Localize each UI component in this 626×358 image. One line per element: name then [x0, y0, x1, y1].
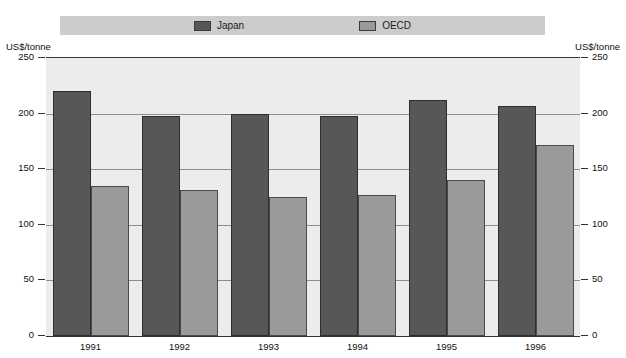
bar-group — [402, 58, 491, 336]
x-axis-label-1991: 1991 — [46, 341, 135, 352]
legend-swatch-icon — [194, 21, 211, 31]
y-axis-tick-mark-left — [38, 335, 45, 336]
y-axis-tick-mark-right — [581, 168, 588, 169]
y-axis-tick-label-right-100: 100 — [592, 219, 626, 229]
bar-japan-1993 — [231, 114, 269, 336]
bar-group — [491, 58, 580, 336]
bar-group — [46, 58, 135, 336]
x-axis-label-1995: 1995 — [402, 341, 491, 352]
y-axis-tick-mark-right — [581, 335, 588, 336]
x-axis-label-1993: 1993 — [224, 341, 313, 352]
y-axis-tick-label-left-200: 200 — [0, 108, 34, 118]
legend-item-japan: Japan — [194, 16, 244, 35]
x-axis-label-1992: 1992 — [135, 341, 224, 352]
y-axis-tick-label-right-200: 200 — [592, 108, 626, 118]
bar-japan-1996 — [498, 106, 536, 336]
y-axis-tick-label-left-50: 50 — [0, 274, 34, 284]
y-axis-tick-label-right-250: 250 — [592, 52, 626, 62]
y-axis-tick-label-right-0: 0 — [592, 330, 626, 340]
y-axis-tick-mark-left — [38, 57, 45, 58]
bar-japan-1994 — [320, 116, 358, 336]
x-axis-label-1996: 1996 — [491, 341, 580, 352]
y-axis-tick-label-right-150: 150 — [592, 163, 626, 173]
y-axis-tick-mark-right — [581, 279, 588, 280]
bar-japan-1991 — [53, 91, 91, 336]
legend-swatch-icon — [359, 21, 376, 31]
y-axis-tick-mark-right — [581, 224, 588, 225]
bar-japan-1992 — [142, 116, 180, 336]
bar-oecd-1992 — [180, 190, 218, 336]
chart-legend: Japan OECD — [60, 16, 545, 35]
y-axis-tick-mark-right — [581, 57, 588, 58]
legend-label-oecd: OECD — [382, 20, 411, 31]
x-axis-label-1994: 1994 — [313, 341, 402, 352]
legend-label-japan: Japan — [217, 20, 244, 31]
bar-group — [313, 58, 402, 336]
bar-oecd-1995 — [447, 180, 485, 336]
y-axis-tick-mark-right — [581, 113, 588, 114]
bar-oecd-1991 — [91, 186, 129, 336]
y-axis-tick-mark-left — [38, 168, 45, 169]
legend-item-oecd: OECD — [359, 16, 411, 35]
y-axis-tick-mark-left — [38, 113, 45, 114]
bar-oecd-1993 — [269, 197, 307, 336]
bar-chart: Japan OECD US$/tonne US$/tonne 005050100… — [0, 0, 626, 358]
y-axis-tick-label-right-50: 50 — [592, 274, 626, 284]
y-axis-tick-label-left-100: 100 — [0, 219, 34, 229]
bar-group — [135, 58, 224, 336]
bar-japan-1995 — [409, 100, 447, 336]
y-axis-tick-mark-left — [38, 224, 45, 225]
y-axis-tick-mark-left — [38, 279, 45, 280]
bar-oecd-1994 — [358, 195, 396, 336]
bar-group — [224, 58, 313, 336]
y-axis-tick-label-left-150: 150 — [0, 163, 34, 173]
plot-area — [46, 57, 580, 337]
y-axis-tick-label-left-0: 0 — [0, 330, 34, 340]
bar-oecd-1996 — [536, 145, 574, 336]
y-axis-tick-label-left-250: 250 — [0, 52, 34, 62]
